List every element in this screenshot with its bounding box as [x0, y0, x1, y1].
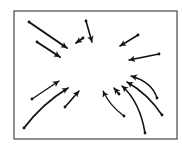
arrow-tail-dot — [137, 34, 140, 37]
arrows-group — [23, 20, 164, 135]
arrow-tail-dot — [64, 106, 67, 109]
arrow-tail-dot — [82, 37, 85, 40]
arrow — [114, 88, 120, 95]
arrow — [64, 91, 79, 108]
arrow-shaft — [24, 88, 68, 128]
arrow-tail-dot — [118, 93, 121, 96]
arrow — [36, 41, 60, 57]
arrow — [85, 20, 94, 42]
arrow — [120, 34, 139, 46]
arrow — [28, 21, 67, 48]
arrow-tail-dot — [31, 98, 34, 101]
arrow — [23, 88, 68, 129]
arrow-tail-dot — [36, 41, 39, 44]
diagram-frame — [14, 11, 177, 139]
arrow-field-diagram — [0, 0, 182, 147]
arrow-tail-dot — [158, 53, 161, 56]
arrow-tail-dot — [85, 20, 88, 23]
arrow-shaft — [29, 22, 67, 48]
arrow — [129, 53, 160, 62]
arrow-tail-dot — [23, 127, 26, 130]
arrow-tail-dot — [28, 21, 31, 24]
arrow — [103, 91, 126, 117]
arrow-tail-dot — [144, 132, 147, 135]
diagram-canvas: Arrows converging toward center — [0, 0, 182, 147]
arrow-tail-dot — [156, 97, 159, 100]
arrow — [76, 37, 84, 43]
arrow-tail-dot — [123, 115, 126, 118]
arrow-tail-dot — [161, 114, 164, 117]
